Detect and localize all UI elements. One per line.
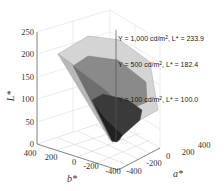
- svg-text:400: 400: [198, 140, 211, 150]
- x-axis-label: a*: [173, 168, 183, 179]
- svg-text:150: 150: [21, 72, 34, 82]
- svg-text:400: 400: [24, 148, 37, 158]
- svg-text:0: 0: [72, 157, 76, 167]
- svg-text:-400: -400: [126, 166, 142, 176]
- x-ticks: -400 -200 0 200 400: [126, 140, 210, 176]
- svg-text:200: 200: [182, 147, 195, 157]
- svg-text:200: 200: [45, 152, 58, 162]
- svg-text:-200: -200: [83, 161, 99, 171]
- annotation-1000: Y = 1,000 cd/m2, L* = 233.9: [118, 34, 204, 43]
- annotation-500: Y = 500 cd/m2, L* = 182.4: [118, 60, 198, 69]
- y-axis-label: b*: [67, 173, 77, 184]
- z-axis-label: L*: [5, 91, 16, 103]
- chart-3d: 250 200 150 100 50 0 L* 400 200 0 -200 -…: [0, 0, 224, 191]
- svg-text:100: 100: [21, 94, 34, 104]
- svg-text:50: 50: [26, 117, 35, 127]
- annotation-100: Y = 100 cd/m2, L* = 100.0: [118, 95, 198, 104]
- y-ticks: 400 200 0 -200 -400: [24, 148, 121, 176]
- svg-text:-200: -200: [146, 158, 162, 168]
- svg-text:250: 250: [21, 27, 34, 37]
- svg-text:0: 0: [166, 151, 170, 161]
- svg-text:Y = 100 cd/m2, L* = 100.0: Y = 100 cd/m2, L* = 100.0: [118, 95, 198, 104]
- svg-text:-400: -400: [105, 166, 121, 176]
- z-ticks: 250 200 150 100 50 0: [21, 27, 34, 149]
- svg-text:Y = 1,000 cd/m2, L* = 233.9: Y = 1,000 cd/m2, L* = 233.9: [118, 34, 204, 43]
- svg-text:Y = 500 cd/m2, L* = 182.4: Y = 500 cd/m2, L* = 182.4: [118, 60, 198, 69]
- svg-text:200: 200: [21, 49, 34, 59]
